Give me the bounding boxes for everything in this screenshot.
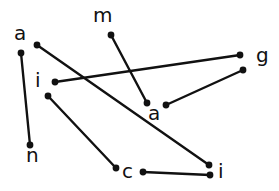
letter-label-c: c — [122, 159, 133, 183]
endpoint-dot-i1 — [52, 79, 59, 86]
connector-line-c2-i2b — [143, 172, 210, 175]
endpoint-dot-a1r — [34, 42, 41, 49]
endpoint-dot-i1b — [45, 93, 52, 100]
diagram-canvas: amiganci — [0, 0, 279, 191]
letter-label-a2: a — [148, 101, 160, 125]
connector-line-g2-a2r — [166, 70, 243, 105]
endpoint-dot-c — [113, 165, 120, 172]
letter-label-a1: a — [14, 21, 26, 45]
connector-line-i1b-c — [48, 96, 116, 168]
connector-line-a1-n — [21, 53, 30, 145]
endpoint-dot-i2b — [207, 172, 214, 179]
letter-label-m: m — [93, 3, 112, 27]
endpoint-dot-g2 — [240, 67, 247, 74]
letter-label-i1: i — [35, 68, 41, 92]
endpoint-dot-a2r — [163, 102, 170, 109]
endpoint-dot-a1 — [18, 50, 25, 57]
letter-label-i2: i — [218, 159, 224, 183]
letter-label-n: n — [26, 143, 39, 167]
connector-line-i1-g — [55, 55, 240, 82]
letter-label-g: g — [256, 43, 269, 67]
endpoint-dot-c2 — [140, 169, 147, 176]
endpoint-dot-g — [237, 52, 244, 59]
letter-matching-diagram: amiganci — [0, 0, 279, 191]
endpoint-dot-i2 — [206, 162, 213, 169]
endpoint-dot-m — [108, 32, 115, 39]
